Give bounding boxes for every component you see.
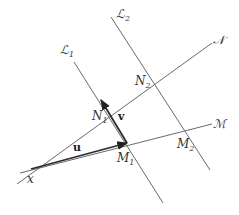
line-l2 bbox=[111, 17, 210, 170]
vector-label-u: u bbox=[73, 141, 81, 154]
point-label-x: x bbox=[27, 172, 34, 186]
vectors-layer bbox=[31, 100, 127, 169]
vector-label-v: v bbox=[117, 110, 125, 123]
geometry-diagram: ℒ1ℒ2𝒩ℳuvxN1M1N2M2 bbox=[0, 0, 239, 215]
lines-layer bbox=[17, 17, 212, 203]
line-label-l2: ℒ2 bbox=[116, 7, 130, 23]
line-n bbox=[17, 43, 212, 184]
line-label-n: 𝒩 bbox=[213, 33, 228, 47]
line-label-m: ℳ bbox=[213, 117, 228, 131]
point-label-m2: M2 bbox=[176, 137, 194, 153]
line-label-l1: ℒ1 bbox=[60, 43, 74, 59]
labels-layer: ℒ1ℒ2𝒩ℳuvxN1M1N2M2 bbox=[27, 7, 228, 186]
point-label-n2: N2 bbox=[134, 74, 151, 90]
